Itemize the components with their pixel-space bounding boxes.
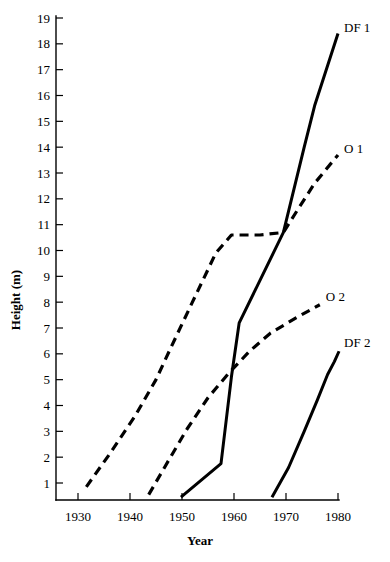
x-tick-label: 1970 [273,509,299,524]
y-tick-label: 18 [37,36,50,51]
y-tick-label: 2 [44,450,51,465]
y-tick-label: 1 [44,476,51,491]
y-tick-label: 13 [37,166,50,181]
chart-figure: 12345678910111213141516171819 1930194019… [0,0,390,562]
y-tick-label: 3 [44,424,51,439]
y-tick-label: 9 [44,269,51,284]
y-tick-label: 19 [37,11,50,26]
series-label-o-1: O 1 [344,141,363,156]
y-tick-label: 8 [44,295,51,310]
series-curve-o-2 [149,305,320,495]
y-tick-label: 14 [37,140,51,155]
y-tick-label: 12 [37,191,50,206]
y-tick-label: 11 [37,217,50,232]
x-axis-title: Year [187,533,213,548]
series-labels: DF 1O 1O 2DF 2 [326,20,371,351]
x-axis-ticks [78,493,338,500]
y-tick-label: 16 [37,88,51,103]
series-curves [86,34,339,498]
y-axis-title: Height (m) [8,270,23,330]
y-tick-label: 4 [44,398,51,413]
x-tick-label: 1960 [221,509,247,524]
series-label-df-1: DF 1 [344,20,370,35]
x-axis-tick-labels: 193019401950196019701980 [65,509,351,524]
y-tick-label: 6 [44,346,51,361]
series-label-df-2: DF 2 [344,335,370,350]
series-curve-df-2 [272,351,339,497]
x-tick-label: 1940 [117,509,143,524]
y-tick-label: 10 [37,243,50,258]
x-tick-label: 1950 [169,509,195,524]
y-tick-label: 7 [44,321,51,336]
x-tick-label: 1930 [65,509,91,524]
line-chart: 12345678910111213141516171819 1930194019… [0,0,390,562]
y-axis-tick-labels: 12345678910111213141516171819 [37,11,51,491]
series-label-o-2: O 2 [326,289,345,304]
x-tick-label: 1980 [325,509,351,524]
series-curve-df-1 [181,34,338,498]
y-tick-label: 17 [37,62,51,77]
y-axis-ticks [56,18,63,483]
y-tick-label: 15 [37,114,50,129]
y-tick-label: 5 [44,372,51,387]
